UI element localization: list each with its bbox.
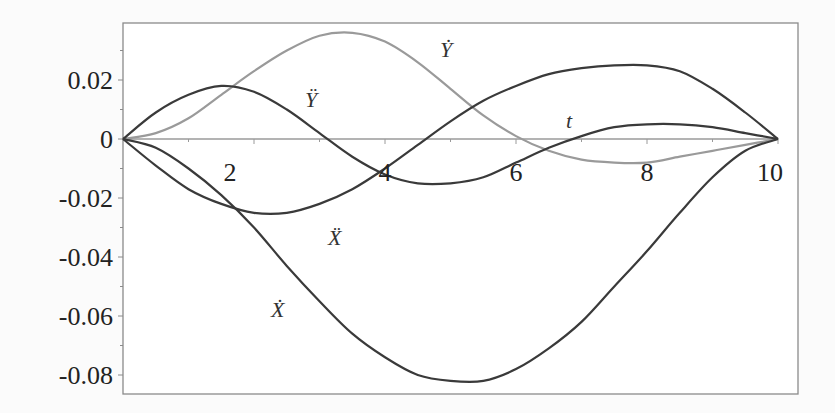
y-tick-label-0.02: 0.02 [68, 66, 114, 95]
chart: 2 4 6 8 10 0.02 0 -0.02 -0.04 -0.06 -0.0… [0, 0, 835, 413]
label-xdot: Ẋ [270, 297, 286, 322]
label-xddot: Ẍ [327, 225, 343, 250]
x-tick-label-4: 4 [379, 158, 392, 187]
y-tick-label-0: 0 [100, 125, 113, 154]
y-tick-label-neg0.04: -0.04 [59, 243, 113, 272]
x-tick-label-10: 10 [757, 158, 783, 187]
y-tick-label-neg0.02: -0.02 [59, 184, 113, 213]
y-axis-ticks [118, 51, 123, 376]
x-tick-label-6: 6 [510, 158, 523, 187]
y-tick-label-neg0.06: -0.06 [59, 302, 113, 331]
x-tick-label-8: 8 [641, 158, 654, 187]
x-axis-label-t: t [566, 108, 573, 133]
y-tick-label-neg0.08: -0.08 [59, 361, 113, 390]
x-tick-label-2: 2 [224, 158, 237, 187]
